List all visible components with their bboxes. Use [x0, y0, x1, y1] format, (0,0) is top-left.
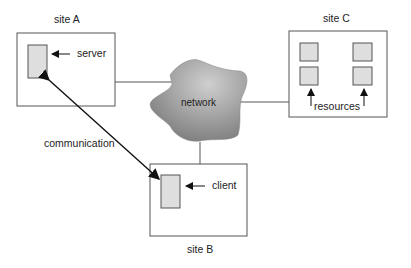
resources-label: resources — [314, 100, 360, 112]
network-label: network — [181, 97, 216, 108]
site-a-label: site A — [54, 13, 80, 25]
resource-box — [300, 43, 318, 61]
diagram-canvas — [0, 0, 411, 268]
resource-box — [353, 67, 372, 85]
client-label: client — [212, 179, 237, 191]
client-box — [161, 175, 180, 208]
server-label: server — [77, 47, 106, 59]
site-c-label: site C — [323, 12, 350, 24]
resource-box — [300, 67, 318, 85]
server-box — [28, 45, 47, 78]
communication-label: communication — [44, 137, 115, 149]
resource-box — [353, 43, 372, 61]
site-b-label: site B — [187, 243, 213, 255]
